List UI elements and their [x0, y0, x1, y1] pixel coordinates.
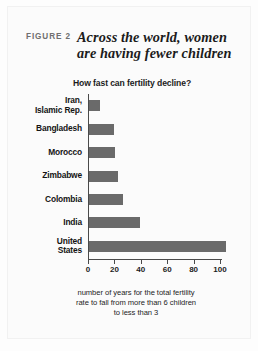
bar: [89, 147, 115, 158]
chart-footnote: number of years for the total fertility …: [50, 288, 222, 319]
tick-mark: [114, 260, 115, 264]
tick-label: 40: [136, 265, 145, 274]
footnote-line-3: to less than 3: [50, 308, 222, 318]
figure-panel: FIGURE 2 Across the world, women are hav…: [0, 0, 258, 351]
tick-mark: [88, 260, 89, 264]
bar-chart: Iran,Islamic Rep.BangladeshMoroccoZimbab…: [0, 94, 258, 266]
footnote-line-1: number of years for the total fertility: [50, 288, 222, 298]
figure-number-label: FIGURE 2: [26, 30, 77, 41]
category-label: Zimbabwe: [14, 171, 82, 181]
tick-label: 20: [110, 265, 119, 274]
category-label: Colombia: [14, 195, 82, 205]
bar: [89, 217, 140, 228]
tick-mark: [167, 260, 168, 264]
figure-title-block: FIGURE 2 Across the world, women are hav…: [26, 30, 238, 61]
tick-label: 0: [86, 265, 90, 274]
figure-content: FIGURE 2 Across the world, women are hav…: [0, 0, 258, 351]
bar-rows: Iran,Islamic Rep.BangladeshMoroccoZimbab…: [0, 94, 258, 258]
title-line-2: are having fewer children: [77, 46, 232, 62]
footnote-line-2: rate to fall from more than 6 children: [50, 298, 222, 308]
tick-mark: [194, 260, 195, 264]
x-axis-ticks: 020406080100: [0, 260, 258, 282]
category-label: Morocco: [14, 148, 82, 158]
category-label: Bangladesh: [14, 124, 82, 134]
tick-label: 80: [189, 265, 198, 274]
category-label: Iran,Islamic Rep.: [14, 96, 82, 115]
bar: [89, 171, 118, 182]
page-title: Across the world, women are having fewer…: [77, 30, 232, 61]
bar: [89, 124, 114, 135]
bar: [89, 241, 226, 252]
tick-label: 100: [213, 265, 226, 274]
title-line-1: Across the world, women: [77, 30, 232, 46]
category-label: India: [14, 218, 82, 228]
bar: [89, 100, 100, 111]
chart-subtitle: How fast can fertility decline?: [26, 78, 238, 88]
category-label: UnitedStates: [14, 237, 82, 256]
bar: [89, 194, 123, 205]
tick-label: 60: [163, 265, 172, 274]
tick-mark: [141, 260, 142, 264]
tick-mark: [220, 260, 221, 264]
